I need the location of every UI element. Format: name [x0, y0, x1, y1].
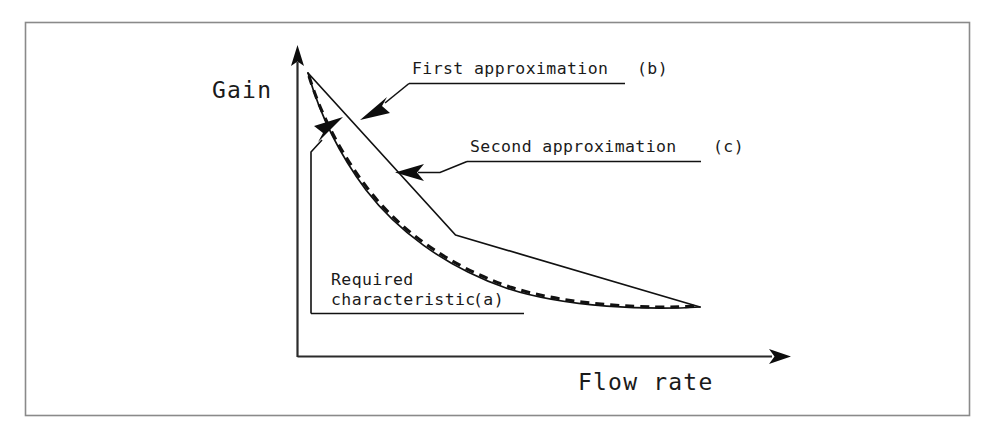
x-axis-arrowhead	[769, 349, 791, 364]
first-approximation-leader	[385, 84, 409, 104]
required-characteristic-arrowhead	[314, 117, 343, 142]
second-approximation-tag: (c)	[713, 137, 744, 156]
gain-flow-rate-diagram: Gain Flow rate First approximation (b) S…	[0, 0, 998, 438]
second-approximation-leader	[418, 162, 467, 173]
first-approximation-label: First approximation	[412, 59, 608, 78]
required-characteristic-tag: (a)	[473, 290, 504, 309]
required-characteristic-label-line2: characteristic	[331, 290, 476, 309]
second-approximation-label: Second approximation	[470, 137, 677, 156]
required-characteristic-leader	[311, 140, 322, 314]
required-characteristic-label-line1: Required	[331, 270, 414, 289]
first-approximation-arrowhead	[360, 97, 390, 120]
x-axis-label: Flow rate	[578, 369, 713, 395]
axes-group	[291, 45, 791, 364]
callout-second-approximation: Second approximation (c)	[395, 137, 744, 181]
y-axis-label: Gain	[212, 77, 272, 103]
figure-page: Gain Flow rate First approximation (b) S…	[0, 0, 998, 438]
callout-first-approximation: First approximation (b)	[360, 59, 668, 120]
first-approximation-tag: (b)	[637, 59, 668, 78]
